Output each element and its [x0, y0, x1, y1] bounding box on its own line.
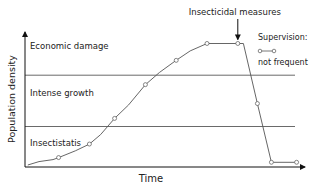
chart: Economic damage Intense growth Insectist…: [0, 0, 315, 186]
data-point: [174, 58, 178, 62]
legend-symbol: [258, 49, 276, 53]
data-point: [205, 41, 209, 45]
data-point: [57, 156, 61, 160]
data-point: [236, 41, 240, 45]
legend-entry-not-frequent: not frequent: [258, 58, 308, 67]
data-point: [255, 102, 259, 106]
x-axis-label: Time: [138, 173, 163, 184]
data-point: [113, 116, 117, 120]
y-axis-label: Population density: [6, 55, 17, 143]
annotation-insecticidal-measures: Insecticidal measures: [189, 7, 282, 17]
zone-label-insectistatis: Insectistatis: [30, 138, 82, 148]
data-point: [269, 160, 273, 164]
data-point: [295, 160, 299, 164]
zone-label-intense-growth: Intense growth: [30, 88, 94, 98]
legend-title: Supervision:: [258, 33, 307, 42]
zone-label-economic-damage: Economic damage: [30, 41, 109, 51]
data-point: [143, 83, 147, 87]
data-point: [87, 142, 91, 146]
